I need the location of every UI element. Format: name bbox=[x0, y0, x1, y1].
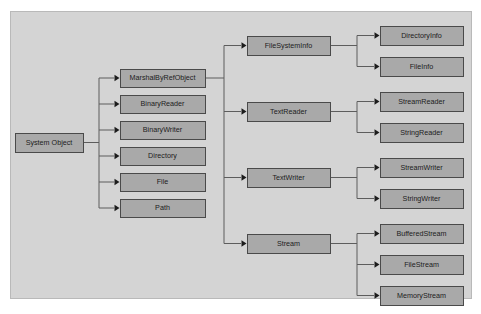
node-label-filestream: FileStream bbox=[404, 260, 439, 269]
node-filesysteminfo[interactable]: FileSystemInfo bbox=[248, 37, 331, 56]
arrow-stringreader bbox=[375, 129, 380, 135]
node-label-stringreader: StringReader bbox=[400, 128, 443, 137]
arrow-memorystream bbox=[375, 292, 380, 298]
node-binaryreader[interactable]: BinaryReader bbox=[121, 96, 206, 114]
diagram-page: System ObjectMarshalByRefObjectBinaryRea… bbox=[0, 0, 481, 314]
node-label-textreader: TextReader bbox=[270, 107, 307, 116]
node-binarywriter[interactable]: BinaryWriter bbox=[121, 122, 206, 140]
node-label-path: Path bbox=[155, 203, 170, 212]
arrow-path bbox=[115, 205, 120, 211]
node-textreader[interactable]: TextReader bbox=[248, 103, 331, 122]
arrow-directoryinfo bbox=[375, 32, 380, 38]
arrow-streamreader bbox=[375, 98, 380, 104]
node-label-streamreader: StreamReader bbox=[398, 97, 445, 106]
node-label-stream: Stream bbox=[277, 239, 300, 248]
node-file[interactable]: File bbox=[121, 174, 206, 192]
node-stringwriter[interactable]: StringWriter bbox=[381, 190, 464, 209]
class-hierarchy-diagram: System ObjectMarshalByRefObjectBinaryRea… bbox=[0, 0, 481, 314]
node-label-directory: Directory bbox=[148, 151, 177, 160]
arrow-textwriter bbox=[242, 174, 247, 180]
node-label-marshalbyrefobject: MarshalByRefObject bbox=[130, 73, 196, 82]
arrow-binaryreader bbox=[115, 101, 120, 107]
node-system-object[interactable]: System Object bbox=[16, 134, 84, 153]
node-stringreader[interactable]: StringReader bbox=[381, 124, 464, 143]
node-label-memorystream: MemoryStream bbox=[397, 291, 446, 300]
node-streamwriter[interactable]: StreamWriter bbox=[381, 159, 464, 178]
arrow-filestream bbox=[375, 261, 380, 267]
node-label-binarywriter: BinaryWriter bbox=[143, 125, 183, 134]
node-label-streamwriter: StreamWriter bbox=[400, 163, 443, 172]
node-label-stringwriter: StringWriter bbox=[403, 194, 441, 203]
node-directoryinfo[interactable]: DirectoryInfo bbox=[381, 27, 464, 46]
node-label-filesysteminfo: FileSystemInfo bbox=[265, 41, 313, 50]
node-label-directoryinfo: DirectoryInfo bbox=[401, 31, 442, 40]
node-fileinfo[interactable]: FileInfo bbox=[381, 58, 464, 77]
node-marshalbyrefobject[interactable]: MarshalByRefObject bbox=[121, 70, 206, 88]
node-label-file: File bbox=[157, 177, 169, 186]
arrow-fileinfo bbox=[375, 63, 380, 69]
node-label-textwriter: TextWriter bbox=[272, 173, 305, 182]
node-filestream[interactable]: FileStream bbox=[381, 256, 464, 275]
arrow-streamwriter bbox=[375, 164, 380, 170]
arrow-file bbox=[115, 179, 120, 185]
node-label-system-object: System Object bbox=[26, 138, 73, 147]
arrow-marshalbyrefobject bbox=[115, 75, 120, 81]
arrow-stringwriter bbox=[375, 195, 380, 201]
arrow-directory bbox=[115, 153, 120, 159]
node-bufferedstream[interactable]: BufferedStream bbox=[381, 225, 464, 244]
arrow-filesysteminfo bbox=[242, 42, 247, 48]
node-label-binaryreader: BinaryReader bbox=[141, 99, 186, 108]
node-layer: System ObjectMarshalByRefObjectBinaryRea… bbox=[16, 27, 464, 306]
node-stream[interactable]: Stream bbox=[248, 235, 331, 254]
node-label-bufferedstream: BufferedStream bbox=[396, 229, 446, 238]
node-label-fileinfo: FileInfo bbox=[410, 62, 434, 71]
node-directory[interactable]: Directory bbox=[121, 148, 206, 166]
arrow-stream bbox=[242, 240, 247, 246]
node-textwriter[interactable]: TextWriter bbox=[248, 169, 331, 188]
node-memorystream[interactable]: MemoryStream bbox=[381, 287, 464, 306]
arrow-bufferedstream bbox=[375, 230, 380, 236]
arrow-binarywriter bbox=[115, 127, 120, 133]
node-path[interactable]: Path bbox=[121, 200, 206, 218]
arrow-textreader bbox=[242, 108, 247, 114]
node-streamreader[interactable]: StreamReader bbox=[381, 93, 464, 112]
